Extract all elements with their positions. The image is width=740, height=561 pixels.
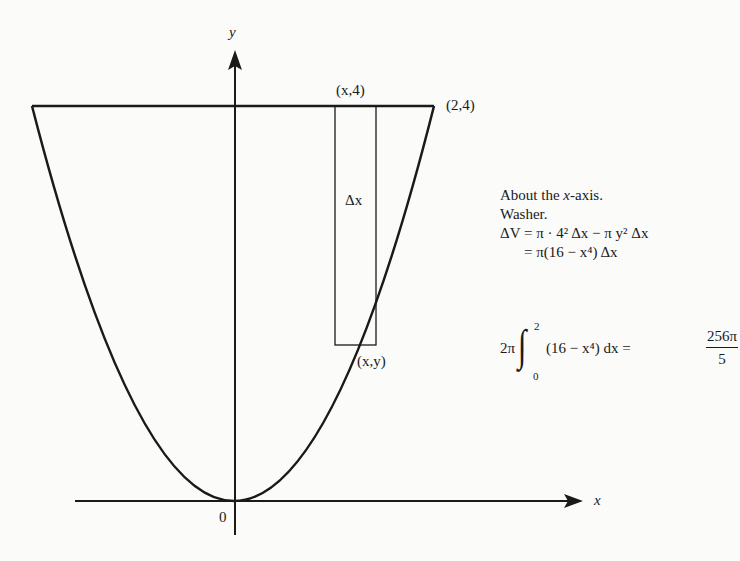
method-note: Washer. [500, 205, 648, 224]
parabola-curve [32, 106, 434, 501]
result-denominator: 5 [706, 348, 738, 368]
axis-note: About the x-axis. [500, 186, 648, 205]
integrand: (16 − x⁴) dx = [546, 340, 631, 357]
volume-integral: 2π ∫ 2 0 (16 − x⁴) dx = 256π 5 [500, 322, 740, 382]
point-label-x4: (x,4) [336, 83, 365, 98]
volume-element-simplified: = π(16 − x⁴) Δx [500, 243, 648, 262]
integral-result: 256π 5 [706, 328, 738, 368]
x-axis-label: x [594, 493, 601, 508]
origin-label: 0 [219, 510, 227, 525]
integral-upper-limit: 2 [534, 320, 540, 332]
y-axis-label: y [229, 25, 236, 40]
solution-notes: About the x-axis. Washer. ΔV = π · 4² Δx… [500, 186, 648, 262]
volume-element: ΔV = π · 4² Δx − π y² Δx [500, 224, 648, 243]
integral-lower-limit: 0 [533, 370, 539, 382]
point-label-xy: (x,y) [357, 354, 386, 369]
integral-coefficient: 2π [500, 340, 515, 357]
washer-strip [335, 106, 376, 345]
point-label-2-4: (2,4) [446, 98, 475, 113]
strip-width-label: Δx [345, 193, 362, 208]
result-numerator: 256π [706, 328, 738, 348]
integral-sign-icon: ∫ [518, 322, 526, 370]
